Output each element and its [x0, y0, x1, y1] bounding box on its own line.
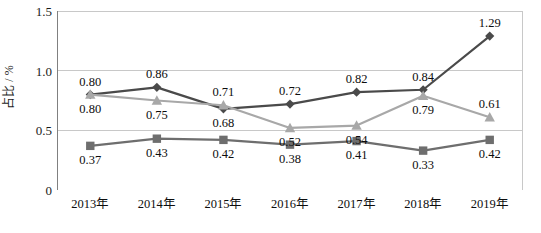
data-label: 0.80 — [79, 103, 101, 116]
data-label: 0.82 — [346, 73, 368, 86]
data-label: 0.68 — [212, 117, 234, 130]
data-label: 0.71 — [212, 86, 234, 99]
x-tick-label: 2014年 — [138, 198, 176, 211]
data-label: 1.29 — [479, 17, 501, 30]
y-tick-label: 1.5 — [18, 5, 52, 18]
data-label: 0.84 — [412, 71, 434, 84]
y-axis-title: 占比 / % — [0, 57, 18, 117]
data-label: 0.61 — [479, 98, 501, 111]
x-tick-label: 2017年 — [338, 198, 376, 211]
data-label: 0.38 — [279, 153, 301, 166]
line-chart: 占比 / % 00.51.01.5 0.800.860.680.720.820.… — [0, 0, 541, 233]
data-label: 0.54 — [346, 134, 368, 147]
data-point-marker — [152, 83, 161, 92]
x-axis-tick-labels: 2013年2014年2015年2016年2017年2018年2019年 — [57, 198, 523, 224]
data-label: 0.72 — [279, 85, 301, 98]
x-tick-label: 2019年 — [471, 198, 509, 211]
data-label: 0.86 — [146, 68, 168, 81]
data-point-marker — [352, 88, 361, 97]
data-point-marker — [153, 134, 161, 142]
data-label: 0.43 — [146, 147, 168, 160]
data-point-marker — [419, 146, 427, 154]
y-tick-label: 0.5 — [18, 124, 52, 137]
data-label: 0.42 — [479, 148, 501, 161]
data-label: 0.33 — [412, 159, 434, 172]
y-tick-label: 1.0 — [18, 65, 52, 78]
data-point-marker — [285, 99, 294, 108]
y-tick-label: 0 — [18, 184, 52, 197]
data-label: 0.79 — [412, 104, 434, 117]
y-axis-tick-labels: 00.51.01.5 — [18, 0, 52, 233]
x-tick-label: 2018年 — [404, 198, 442, 211]
data-point-marker — [219, 136, 227, 144]
data-label: 0.37 — [79, 154, 101, 167]
plot-area: 0.800.860.680.720.820.841.290.800.750.71… — [57, 11, 523, 190]
data-label: 0.80 — [79, 76, 101, 89]
data-label: 0.52 — [279, 136, 301, 149]
data-point-marker — [418, 91, 428, 100]
data-label: 0.75 — [146, 109, 168, 122]
data-label: 0.41 — [346, 149, 368, 162]
x-tick-label: 2016年 — [271, 198, 309, 211]
x-tick-label: 2015年 — [204, 198, 242, 211]
data-point-marker — [86, 142, 94, 150]
data-label: 0.42 — [212, 148, 234, 161]
data-point-marker — [486, 136, 494, 144]
x-tick-label: 2013年 — [71, 198, 109, 211]
